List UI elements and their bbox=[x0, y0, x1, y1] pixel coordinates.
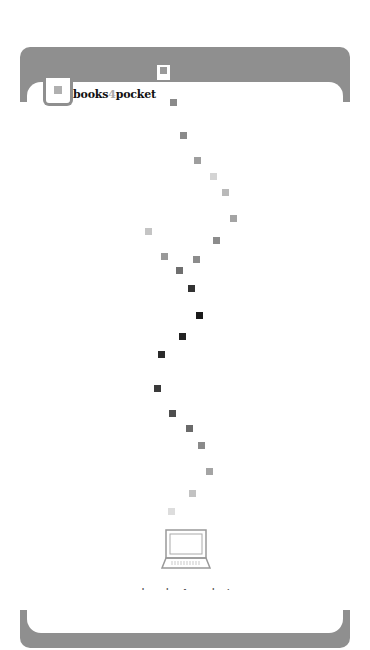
trail-square bbox=[145, 228, 152, 235]
laptop-icon bbox=[161, 528, 211, 570]
frame-bottom-inner bbox=[27, 590, 343, 633]
trail-square bbox=[168, 508, 175, 515]
trail-square bbox=[186, 425, 193, 432]
trail-square bbox=[213, 237, 220, 244]
trail-square bbox=[161, 253, 168, 260]
trail-square bbox=[230, 215, 237, 222]
trail-square bbox=[193, 256, 200, 263]
trail-square bbox=[158, 351, 165, 358]
trail-square bbox=[222, 189, 229, 196]
logo-part-pocket: pocket bbox=[116, 88, 156, 101]
brand-logo: books4pocket bbox=[73, 88, 156, 101]
trail-square bbox=[154, 385, 161, 392]
trail-square bbox=[169, 410, 176, 417]
trail-square bbox=[170, 99, 177, 106]
trail-square bbox=[179, 333, 186, 340]
trail-square bbox=[198, 442, 205, 449]
trail-square bbox=[196, 312, 203, 319]
trail-square bbox=[180, 132, 187, 139]
pocket-square bbox=[54, 86, 62, 94]
trail-square bbox=[188, 285, 195, 292]
trail-square bbox=[206, 468, 213, 475]
trail-square bbox=[210, 173, 217, 180]
trail-square bbox=[160, 67, 167, 74]
trail-square bbox=[189, 490, 196, 497]
logo-part-4: 4 bbox=[108, 88, 115, 101]
trail-square bbox=[194, 157, 201, 164]
pocket-icon bbox=[43, 78, 73, 106]
logo-part-books: books bbox=[73, 88, 108, 101]
trail-square bbox=[176, 267, 183, 274]
